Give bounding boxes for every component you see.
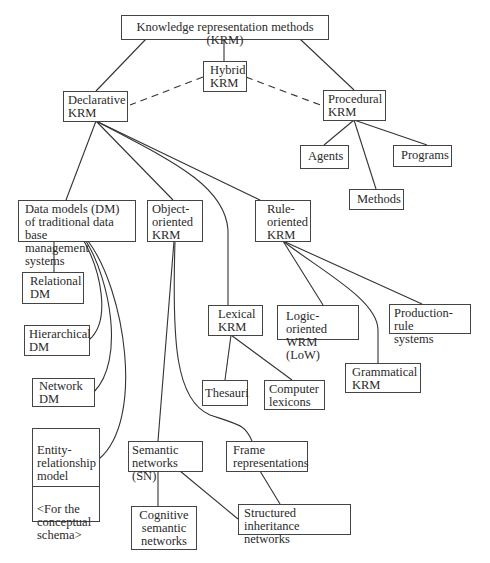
node-object-oriented: Object- oriented KRM xyxy=(147,200,203,242)
node-thesauri: Thesauri xyxy=(202,380,248,406)
node-declarative: Declarative KRM xyxy=(63,91,128,122)
edge-frame-structured xyxy=(260,471,280,504)
edge-lexical-computer xyxy=(231,335,292,380)
node-rule-oriented: Rule- oriented KRM xyxy=(255,200,311,242)
entity-relationship-title: Entity- relationship model xyxy=(33,442,99,487)
edge-dm-network xyxy=(86,241,111,392)
node-entity-relationship: Entity- relationship model <For the conc… xyxy=(32,428,100,522)
edge-dm-entity xyxy=(88,241,126,459)
edge-procedural-agents xyxy=(324,120,354,145)
edge-lexical-thesauri xyxy=(225,335,231,380)
edge-root-procedural xyxy=(300,39,354,90)
node-agents: Agents xyxy=(300,145,349,169)
edge-hybrid-procedural xyxy=(246,77,323,106)
node-hierarchical: Hierarchical DM xyxy=(24,325,90,356)
node-semantic-networks: Semantic networks (SN) xyxy=(128,441,203,472)
edge-hybrid-declarative xyxy=(130,77,203,105)
edge-declarative-datamodels xyxy=(66,121,96,200)
edge-root-declarative xyxy=(96,39,146,91)
node-programs: Programs xyxy=(393,145,452,167)
node-hybrid: Hybrid KRM xyxy=(203,61,247,92)
node-methods: Methods xyxy=(349,189,404,210)
node-lexical: Lexical KRM xyxy=(208,305,263,336)
edge-declarative-object xyxy=(96,121,173,200)
node-structured-inheritance: Structured inheritance networks xyxy=(238,504,351,535)
entity-relationship-note: <For the conceptual schema> xyxy=(37,500,95,542)
node-computer-lexicons: Computer lexicons xyxy=(264,380,325,410)
node-production-rule: Production-rule systems xyxy=(389,304,471,334)
node-network: Network DM xyxy=(32,378,95,407)
node-grammatical: Grammatical KRM xyxy=(345,363,421,393)
node-data-models: Data models (DM) of traditional data bas… xyxy=(18,200,136,242)
edge-declarative-rule xyxy=(96,121,260,200)
node-procedural: Procedural KRM xyxy=(323,90,386,121)
edge-procedural-programs xyxy=(354,120,427,145)
node-frame: Frame representations xyxy=(226,441,308,472)
node-relational: Relational DM xyxy=(22,272,84,304)
edge-object-semantic xyxy=(158,241,174,441)
edge-procedural-methods xyxy=(354,120,376,189)
edge-object-frame xyxy=(174,241,252,441)
node-cognitive: Cognitive semantic networks xyxy=(131,506,197,550)
node-root: Knowledge representation methods (KRM) xyxy=(121,15,329,40)
node-logic-oriented: Logic-oriented WRM (LoW) xyxy=(277,305,359,340)
edge-rule-production xyxy=(283,241,422,304)
